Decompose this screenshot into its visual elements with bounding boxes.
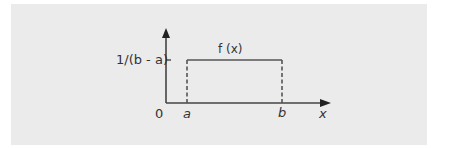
uniform-pdf-diagram: [0, 0, 453, 148]
x-marker-b: b: [278, 106, 286, 119]
y-tick-label: 1/(b - a): [116, 53, 168, 66]
x-axis-label: x: [319, 107, 327, 120]
function-label: f (x): [218, 43, 243, 55]
x-marker-a: a: [183, 107, 191, 120]
y-axis-arrow-icon: [162, 28, 170, 38]
origin-label: 0: [155, 107, 163, 120]
